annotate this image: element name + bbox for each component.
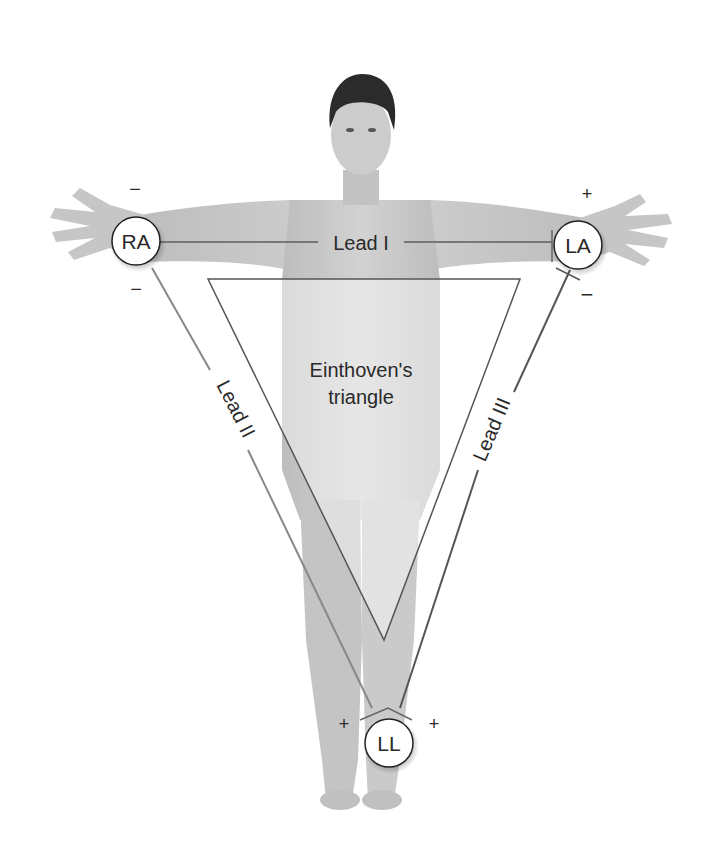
lead-3-label: Lead III [468, 394, 514, 464]
electrode-ra-label: RA [121, 230, 150, 253]
electrode-ll: LL [363, 718, 419, 774]
einthoven-diagram: Lead I Lead II Lead III RA LA LL − − + −… [0, 0, 716, 852]
left-eye [368, 128, 376, 132]
left-foot [362, 790, 402, 810]
ll-lead2-polarity: + [339, 714, 350, 734]
neck [343, 170, 379, 205]
la-lead3-polarity: − [581, 282, 594, 307]
triangle-label-line2: triangle [328, 386, 394, 408]
ll-lead3-polarity: + [429, 714, 440, 734]
right-foot [320, 790, 360, 810]
ra-lead1-polarity: − [129, 178, 141, 200]
lead-2-label: Lead II [213, 377, 260, 441]
electrode-la-label: LA [565, 234, 591, 257]
ra-lead2-polarity: − [130, 278, 142, 300]
einthoven-triangle [208, 279, 520, 640]
la-lead1-polarity: + [582, 184, 593, 204]
lead-1-label: Lead I [333, 232, 389, 254]
electrode-la: LA [552, 220, 608, 276]
electrode-ra: RA [110, 216, 166, 272]
electrode-ll-label: LL [377, 732, 400, 755]
right-eye [346, 128, 354, 132]
triangle-label-line1: Einthoven's [310, 359, 413, 381]
